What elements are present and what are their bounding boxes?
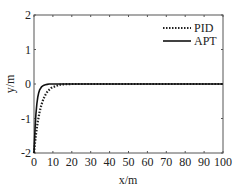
y-tick-label: 0 [25, 77, 31, 91]
x-tick-label: 90 [198, 155, 210, 169]
x-tick-label: 40 [104, 155, 116, 169]
x-axis-label: x/m [119, 173, 138, 187]
y-axis-label: y/m [3, 74, 17, 93]
legend-pid-label: PID [194, 21, 214, 35]
x-tick-label: 0 [31, 155, 37, 169]
y-tick-label: -2 [21, 146, 31, 160]
y-tick-label: -1 [21, 112, 31, 126]
x-tick-label: 10 [47, 155, 59, 169]
x-tick-label: 70 [160, 155, 172, 169]
line-chart: 0102030405060708090100 -2-1012 x/m y/m P… [0, 0, 245, 190]
x-tick-label: 80 [179, 155, 191, 169]
x-tick-label: 20 [66, 155, 78, 169]
x-tick-label: 50 [123, 155, 135, 169]
x-tick-label: 30 [85, 155, 97, 169]
x-tick-label: 60 [141, 155, 153, 169]
y-tick-label: 2 [25, 8, 31, 22]
legend-apt-label: APT [194, 34, 217, 48]
x-tick-label: 100 [214, 155, 232, 169]
y-tick-label: 1 [25, 43, 31, 57]
